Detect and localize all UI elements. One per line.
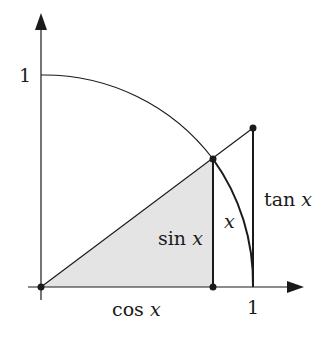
circle-point — [210, 156, 217, 163]
x-axis-arrow-icon — [287, 281, 304, 293]
y-one-label: 1 — [19, 64, 31, 86]
tan-var: x — [301, 188, 312, 210]
cos-point — [210, 284, 217, 291]
unit-circle-arc — [41, 75, 213, 159]
arc-label: x — [224, 210, 235, 232]
unit-circle-diagram: 1 1 cos x sin x x tan x — [0, 0, 335, 341]
cos-label: cos x — [112, 298, 161, 320]
cos-var: x — [150, 298, 161, 320]
tan-fn: tan — [264, 188, 295, 210]
sin-fn: sin — [158, 227, 186, 249]
origin-point — [38, 284, 45, 291]
sin-var: x — [192, 227, 203, 249]
cos-fn: cos — [112, 298, 144, 320]
x-one-label: 1 — [247, 296, 259, 318]
y-axis-arrow-icon — [35, 13, 47, 30]
tan-point — [250, 125, 257, 132]
tan-label: tan x — [264, 188, 312, 210]
sin-label: sin x — [158, 227, 203, 249]
